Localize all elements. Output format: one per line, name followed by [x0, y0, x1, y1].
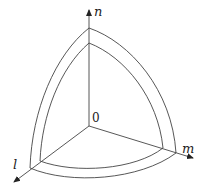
inner-arc-l-m — [40, 148, 163, 168]
shell-diagram — [0, 0, 203, 190]
m-axis — [89, 126, 193, 158]
l-axis — [14, 126, 89, 182]
inner-arc-n-m — [89, 43, 163, 148]
origin-label: 0 — [92, 112, 100, 124]
l-axis-label: l — [13, 158, 17, 171]
n-axis-label: n — [94, 5, 102, 18]
outer-arc-n-l — [30, 28, 89, 168]
inner-arc-n-l — [40, 43, 89, 161]
outer-arc-n-m — [89, 28, 176, 153]
m-axis-label: m — [182, 142, 194, 155]
outer-arc-l-m — [30, 153, 176, 178]
